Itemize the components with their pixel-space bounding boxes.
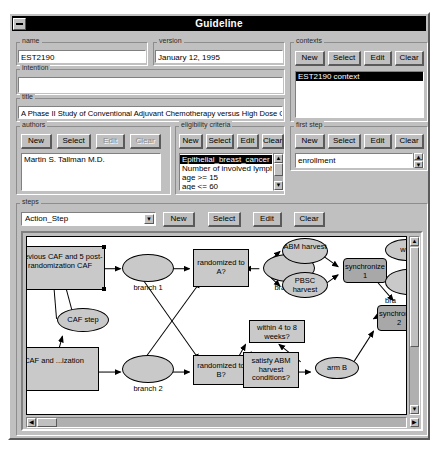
authors-edit-button: Edit bbox=[96, 134, 125, 149]
authors-listbox[interactable]: Martin S. Tallman M.D. bbox=[21, 153, 161, 191]
eligibility-select-button[interactable]: Select bbox=[206, 134, 234, 149]
canvas-hscrollbar[interactable]: ◀ bbox=[26, 417, 407, 428]
node-satisfy-abm-harvest-conditions[interactable]: satisfy ABM harvest conditions? bbox=[243, 352, 299, 388]
node-label: randomized to B? bbox=[194, 362, 248, 379]
node-label: within 4 to 8 weeks? bbox=[250, 324, 304, 341]
scroll-left-arrow-icon[interactable]: ◀ bbox=[27, 418, 36, 427]
steps-type-value: Action_Step bbox=[25, 214, 68, 223]
node-label: PBSC harvest bbox=[283, 277, 327, 294]
node-label: CAF step bbox=[58, 316, 108, 325]
authors-label: authors bbox=[20, 121, 47, 129]
guideline-window: Guideline name EST2190 version January 1… bbox=[8, 12, 430, 440]
contexts-listbox[interactable]: EST2190 context bbox=[295, 71, 424, 118]
node-label: satisfy ABM harvest conditions? bbox=[244, 357, 298, 383]
contexts-clear-button[interactable]: Clear bbox=[395, 51, 424, 66]
version-input[interactable]: January 12, 1995 bbox=[155, 50, 283, 63]
steps-edit-button[interactable]: Edit bbox=[253, 212, 282, 227]
scroll-right-arrow-icon[interactable]: ▶ bbox=[410, 418, 419, 427]
node-label: CAF and ...ization bbox=[26, 357, 98, 366]
scroll-down-arrow-icon[interactable]: ▼ bbox=[274, 181, 283, 190]
scroll-down-arrow-icon[interactable]: ▼ bbox=[414, 161, 423, 168]
node-label: previous CAF and 5 post-randomization CA… bbox=[26, 253, 104, 270]
first-step-edit-button[interactable]: Edit bbox=[364, 134, 392, 149]
list-item[interactable]: age >= 15 bbox=[180, 173, 272, 182]
node-caf-and-randomization[interactable]: CAF and ...ization bbox=[26, 347, 99, 391]
first-step-new-button[interactable]: New bbox=[295, 134, 325, 149]
canvas-vscrollbar[interactable]: ▲ ▼ bbox=[409, 236, 420, 415]
node-branch2[interactable] bbox=[122, 355, 174, 383]
scroll-thumb[interactable] bbox=[37, 418, 57, 427]
eligibility-edit-button[interactable]: Edit bbox=[237, 134, 259, 149]
steps-select-button[interactable]: Select bbox=[208, 212, 241, 227]
window-client-area: name EST2190 version January 12, 1995 in… bbox=[12, 33, 426, 436]
eligibility-scrollbar[interactable]: ▲ ▼ bbox=[273, 153, 284, 191]
first-step-select-button[interactable]: Select bbox=[328, 134, 361, 149]
scroll-down-arrow-icon[interactable]: ▼ bbox=[410, 405, 419, 414]
flow-diagram-canvas[interactable]: previous CAF and 5 post-randomization CA… bbox=[26, 236, 407, 415]
contexts-edit-button[interactable]: Edit bbox=[364, 51, 392, 66]
name-input[interactable]: EST2190 bbox=[18, 50, 146, 63]
chevron-down-icon[interactable]: ▼ bbox=[144, 214, 154, 224]
node-arm-b[interactable]: arm B bbox=[315, 357, 359, 379]
node-randomized-to-b[interactable]: randomized to B? bbox=[193, 355, 249, 385]
title-input[interactable]: A Phase II Study of Conventional Adjuvan… bbox=[18, 106, 283, 119]
steps-clear-button[interactable]: Clear bbox=[294, 212, 325, 227]
node-abm-harvest[interactable]: ABM harvest bbox=[282, 238, 328, 264]
node-synchronize-1[interactable]: synchronize 1 bbox=[343, 258, 387, 283]
contexts-label: contexts bbox=[294, 37, 324, 45]
scroll-thumb[interactable] bbox=[274, 163, 283, 176]
node-randomized-to-a[interactable]: randomized to A? bbox=[193, 249, 249, 287]
version-label: version bbox=[157, 37, 184, 45]
system-menu-icon[interactable] bbox=[13, 18, 26, 30]
node-within-4-to-8-weeks[interactable]: within 4 to 8 weeks? bbox=[249, 320, 305, 343]
steps-new-button[interactable]: New bbox=[163, 212, 195, 227]
eligibility-clear-button[interactable]: Clear bbox=[262, 134, 284, 149]
authors-new-button[interactable]: New bbox=[21, 134, 52, 149]
steps-type-combo[interactable]: Action_Step ▼ bbox=[21, 212, 156, 226]
contexts-new-button[interactable]: New bbox=[295, 51, 325, 66]
intention-input[interactable] bbox=[18, 77, 283, 93]
scroll-up-arrow-icon[interactable]: ▲ bbox=[414, 153, 423, 160]
node-label: ABM harvest bbox=[283, 243, 327, 252]
scroll-up-arrow-icon[interactable]: ▲ bbox=[410, 237, 419, 246]
selection-handle[interactable] bbox=[102, 287, 106, 291]
node-label: randomized to A? bbox=[194, 259, 248, 276]
first-step-item[interactable]: enrollment bbox=[296, 154, 412, 165]
list-item[interactable]: EST2190 context bbox=[296, 72, 423, 81]
title-label: title bbox=[20, 93, 35, 101]
first-step-clear-button[interactable]: Clear bbox=[395, 134, 424, 149]
node-label: synchronize 1 bbox=[344, 263, 386, 280]
eligibility-listbox[interactable]: Epithelial_breast_cancer Number of invol… bbox=[179, 153, 273, 191]
authors-select-button[interactable]: Select bbox=[57, 134, 91, 149]
node-pbsc-harvest[interactable]: PBSC harvest bbox=[282, 272, 328, 298]
scroll-up-arrow-icon[interactable]: ▲ bbox=[274, 154, 283, 163]
contexts-select-button[interactable]: Select bbox=[328, 51, 361, 66]
first-step-value[interactable]: enrollment bbox=[295, 153, 413, 168]
node-caf-step[interactable]: CAF step bbox=[57, 308, 109, 332]
window-title: Guideline bbox=[26, 16, 412, 31]
node-branch1[interactable] bbox=[122, 254, 174, 282]
list-item[interactable]: Martin S. Tallman M.D. bbox=[22, 154, 160, 164]
node-synchronize-2[interactable]: synchronize 2 bbox=[377, 305, 407, 331]
selection-handle[interactable] bbox=[102, 245, 106, 249]
list-item[interactable]: Number of involved lymph node >= 10 bbox=[180, 164, 272, 173]
intention-label: intention bbox=[20, 64, 50, 72]
eligibility-label: eligibility criteria bbox=[179, 121, 232, 129]
steps-label: steps bbox=[20, 198, 41, 206]
steps-canvas-frame: previous CAF and 5 post-randomization CA… bbox=[21, 231, 423, 431]
node-label: arm B bbox=[316, 364, 358, 373]
node-previous-caf[interactable]: previous CAF and 5 post-randomization CA… bbox=[26, 246, 105, 290]
scroll-thumb[interactable] bbox=[410, 247, 419, 347]
list-item[interactable]: age <= 60 bbox=[180, 182, 272, 191]
node-label: synchronize 2 bbox=[378, 310, 407, 327]
name-label: name bbox=[20, 37, 42, 45]
node-label: wait bbox=[386, 246, 407, 255]
list-item[interactable]: Epithelial_breast_cancer bbox=[180, 155, 272, 164]
first-step-scrollbar[interactable]: ▲ ▼ bbox=[413, 153, 424, 168]
eligibility-new-button[interactable]: New bbox=[179, 134, 203, 149]
first-step-label: first step bbox=[294, 121, 324, 129]
authors-clear-button: Clear bbox=[130, 134, 161, 149]
titlebar: Guideline bbox=[12, 16, 426, 31]
